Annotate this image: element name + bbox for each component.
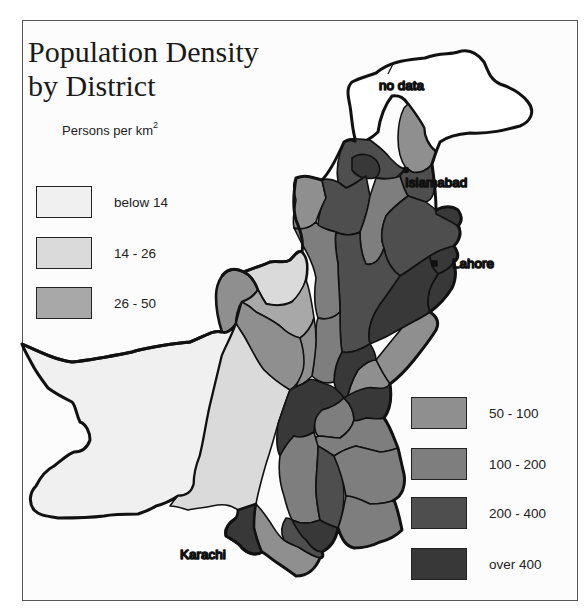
city-label-islamabad: Islamabad (405, 175, 467, 190)
map-canvas: no data Islamabad Lahore Karachi (0, 0, 588, 615)
district-dadu (279, 432, 320, 523)
city-label-karachi: Karachi (180, 547, 226, 562)
city-label-lahore: Lahore (452, 256, 494, 271)
city-marker-islamabad (404, 168, 409, 173)
no-data-label: no data (379, 78, 425, 93)
region-no-data (348, 51, 532, 152)
city-marker-lahore (432, 261, 437, 266)
district-tharparkar (338, 496, 402, 548)
